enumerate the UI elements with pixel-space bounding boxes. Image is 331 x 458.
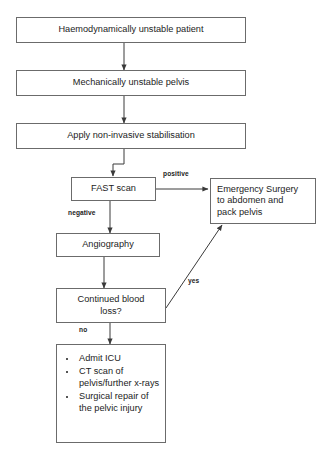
node-mechanically-unstable-pelvis[interactable]: Mechanically unstable pelvis [16, 70, 246, 96]
connector-blood-loss-yes-to-surgery [166, 225, 222, 308]
node-emergency-surgery[interactable]: Emergency Surgery to abdomen and pack pe… [210, 178, 316, 224]
connector-stabilisation-to-fast [113, 149, 124, 176]
edge-label-negative: negative [68, 209, 96, 216]
continued-blood-loss-line-2: loss? [78, 306, 145, 318]
node-label: Angiography [82, 239, 134, 251]
continued-blood-loss-line-1: Continued blood [78, 294, 145, 306]
node-haemodynamically-unstable-patient[interactable]: Haemodynamically unstable patient [16, 17, 246, 43]
node-label: Mechanically unstable pelvis [73, 77, 189, 89]
edge-label-yes: yes [188, 277, 199, 284]
list-item: CT scan of pelvis/further x-rays [77, 365, 162, 390]
flowchart-canvas: Haemodynamically unstable patient Mechan… [0, 0, 331, 458]
emergency-surgery-line-2: to abdomen and [217, 195, 298, 207]
node-fast-scan[interactable]: FAST scan [71, 177, 156, 201]
outcome-bullet-list: Admit ICU CT scan of pelvis/further x-ra… [60, 352, 162, 415]
edge-label-no: no [79, 326, 87, 333]
node-angiography[interactable]: Angiography [56, 233, 160, 257]
node-continued-blood-loss[interactable]: Continued blood loss? [56, 288, 166, 323]
node-apply-non-invasive-stabilisation[interactable]: Apply non-invasive stabilisation [16, 123, 246, 149]
emergency-surgery-line-3: pack pelvis [217, 207, 298, 219]
list-item: Surgical repair of the pelvic injury [77, 390, 162, 415]
node-label: FAST scan [91, 183, 136, 195]
emergency-surgery-line-1: Emergency Surgery [217, 184, 298, 196]
node-outcome-actions[interactable]: Admit ICU CT scan of pelvis/further x-ra… [56, 344, 166, 443]
node-label: Apply non-invasive stabilisation [67, 130, 195, 142]
node-label: Haemodynamically unstable patient [58, 24, 203, 36]
edge-label-positive: positive [163, 170, 189, 177]
list-item: Admit ICU [77, 352, 162, 365]
